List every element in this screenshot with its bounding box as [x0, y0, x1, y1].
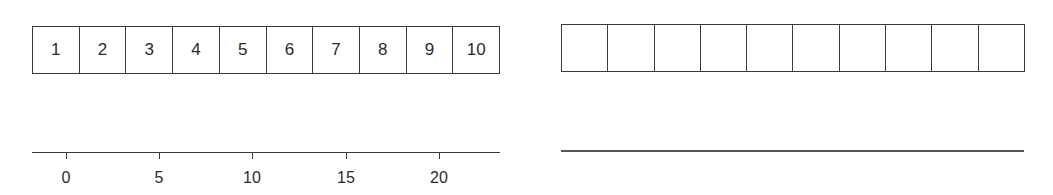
right-array-boxes	[561, 24, 1025, 72]
axis-tick-label: 5	[155, 169, 164, 187]
array-cell: 1	[33, 27, 79, 73]
array-cell: 7	[312, 27, 359, 73]
array-cell: 3	[125, 27, 172, 73]
axis-tick-label: 0	[62, 169, 71, 187]
empty-array-cell	[839, 25, 885, 71]
empty-array-cell	[792, 25, 838, 71]
right-number-axis	[561, 150, 1024, 152]
empty-array-cell	[931, 25, 977, 71]
axis-tick-label: 15	[337, 169, 355, 187]
axis-tick	[439, 153, 440, 159]
empty-array-cell	[885, 25, 931, 71]
empty-array-cell	[700, 25, 746, 71]
axis-tick	[66, 153, 67, 159]
axis-tick-label: 10	[243, 169, 261, 187]
axis-tick	[346, 153, 347, 159]
empty-array-cell	[607, 25, 653, 71]
axis-tick	[159, 153, 160, 159]
array-cell: 2	[79, 27, 126, 73]
array-cell: 10	[452, 27, 499, 73]
array-cell: 9	[406, 27, 453, 73]
left-array-boxes: 1 2 3 4 5 6 7 8 9 10	[32, 26, 500, 74]
left-number-axis: 0 5 10 15 20	[32, 152, 500, 153]
empty-array-cell	[654, 25, 700, 71]
empty-array-cell	[746, 25, 792, 71]
empty-array-cell	[978, 25, 1024, 71]
axis-tick-label: 20	[430, 169, 448, 187]
empty-array-cell	[562, 25, 607, 71]
array-cell: 8	[359, 27, 406, 73]
array-cell: 4	[172, 27, 219, 73]
array-cell: 5	[219, 27, 266, 73]
array-cell: 6	[266, 27, 313, 73]
axis-tick	[252, 153, 253, 159]
